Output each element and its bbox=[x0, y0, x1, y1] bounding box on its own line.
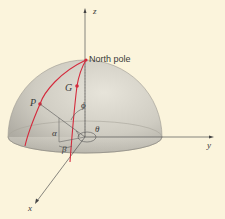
beta-label: β bbox=[62, 145, 66, 154]
point-g-label: G bbox=[65, 83, 72, 93]
north-pole-point bbox=[84, 58, 87, 61]
phi-label: ϕ bbox=[81, 101, 86, 110]
point-p-label: P bbox=[30, 98, 36, 108]
theta-label: θ bbox=[95, 125, 99, 134]
y-axis-arrow-icon bbox=[209, 136, 214, 139]
y-axis-label: y bbox=[207, 141, 211, 150]
alpha-label: α bbox=[52, 129, 57, 138]
x-axis-label: x bbox=[28, 204, 32, 213]
z-axis-arrow-icon bbox=[84, 8, 87, 13]
diagram-canvas bbox=[0, 0, 225, 219]
point-g bbox=[75, 84, 79, 88]
hemisphere-diagram: z North pole G P ϕ θ α β y x bbox=[0, 0, 225, 219]
z-axis-label: z bbox=[93, 7, 97, 16]
north-pole-label: North pole bbox=[89, 55, 131, 64]
equator-front bbox=[8, 137, 162, 153]
